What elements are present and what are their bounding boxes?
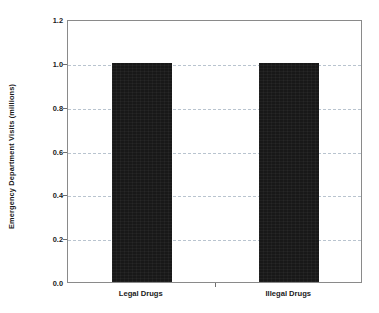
bar-chart: Emergency Department Visits (millions) 1… bbox=[0, 0, 379, 313]
y-axis-tick-labels: 1.21.00.80.60.40.20.0 bbox=[15, 20, 63, 283]
bar-illegal-drugs bbox=[259, 63, 319, 282]
y-axis-tick-label: 0.2 bbox=[17, 235, 63, 244]
y-axis-tick-label: 1.0 bbox=[17, 59, 63, 68]
x-axis-tick-mark bbox=[215, 283, 216, 287]
y-axis-tick-mark bbox=[63, 239, 67, 240]
y-axis-tick-label: 0.6 bbox=[17, 147, 63, 156]
y-axis-tick-label: 0.4 bbox=[17, 191, 63, 200]
x-axis-tick-label: Legal Drugs bbox=[119, 289, 163, 298]
y-axis-tick-mark bbox=[63, 152, 67, 153]
x-axis-tick-label: Illegal Drugs bbox=[265, 289, 311, 298]
y-axis-tick-mark bbox=[63, 64, 67, 65]
bar-legal-drugs bbox=[112, 63, 172, 282]
plot-area bbox=[67, 20, 362, 283]
y-axis-tick-label: 1.2 bbox=[17, 16, 63, 25]
y-axis-tick-mark bbox=[63, 108, 67, 109]
y-axis-tick-mark bbox=[63, 195, 67, 196]
y-axis-tick-label: 0.8 bbox=[17, 103, 63, 112]
y-axis-tick-label: 0.0 bbox=[17, 279, 63, 288]
